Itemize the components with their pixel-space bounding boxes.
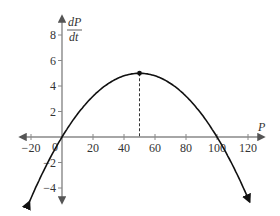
vertex-point: [137, 71, 142, 76]
y-tick-label: 2: [50, 105, 56, 119]
x-tick-label: 120: [239, 141, 257, 155]
x-tick-label: 40: [118, 141, 130, 155]
y-tick-label: 4: [50, 79, 56, 93]
x-tick-label: 20: [87, 141, 99, 155]
y-axis-label-numerator: dP: [68, 15, 82, 29]
y-ticks: −4−22468: [43, 28, 62, 195]
x-tick-label: 80: [180, 141, 192, 155]
x-tick-label: 60: [149, 141, 161, 155]
x-tick-label: −20: [22, 141, 41, 155]
x-axis-label: P: [257, 120, 266, 134]
y-axis-label-denominator: dt: [69, 30, 79, 44]
chart: −20020406080100120 −4−22468 P dP dt: [0, 0, 280, 216]
y-tick-label: −4: [43, 181, 56, 195]
y-tick-label: 6: [50, 54, 56, 68]
y-tick-label: 8: [50, 28, 56, 42]
